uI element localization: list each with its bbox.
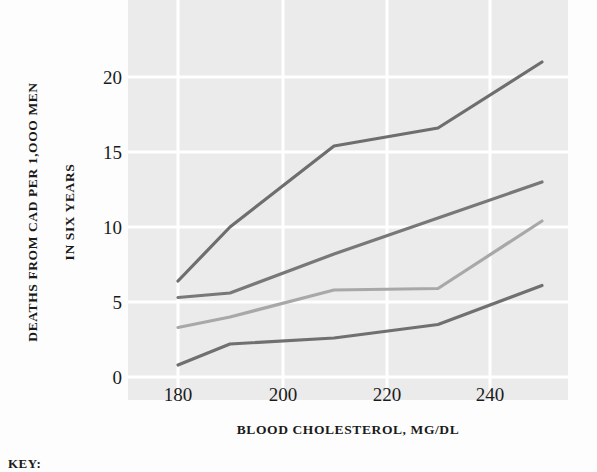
y-tick-15: 15 <box>86 143 122 162</box>
data-line-series-4 <box>178 286 542 366</box>
data-series-group <box>178 62 542 365</box>
x-tick-180: 180 <box>148 385 208 404</box>
key-label: KEY: <box>8 456 41 472</box>
y-tick-10: 10 <box>86 218 122 237</box>
data-line-series-3 <box>178 221 542 328</box>
y-tick-20: 20 <box>86 68 122 87</box>
x-tick-240: 240 <box>460 385 520 404</box>
y-tick-0: 0 <box>86 368 122 387</box>
x-axis-tick-labels: 180 200 220 240 <box>128 385 568 415</box>
plot-area <box>128 0 568 400</box>
x-tick-220: 220 <box>357 385 417 404</box>
y-axis-title-line-1: DEATHS FROM CAD PER 1,OOO MEN <box>25 32 41 392</box>
data-line-series-2 <box>178 182 542 298</box>
x-tick-200: 200 <box>253 385 313 404</box>
y-axis-title-line-2: IN SIX YEARS <box>62 32 78 392</box>
y-axis-tick-labels: 0 5 10 15 20 <box>84 0 122 400</box>
data-line-series-1 <box>178 62 542 281</box>
gridlines <box>128 0 568 400</box>
plot-canvas <box>128 0 568 400</box>
y-tick-5: 5 <box>86 293 122 312</box>
x-axis-title: BLOOD CHOLESTEROL, MG/DL <box>128 422 568 438</box>
